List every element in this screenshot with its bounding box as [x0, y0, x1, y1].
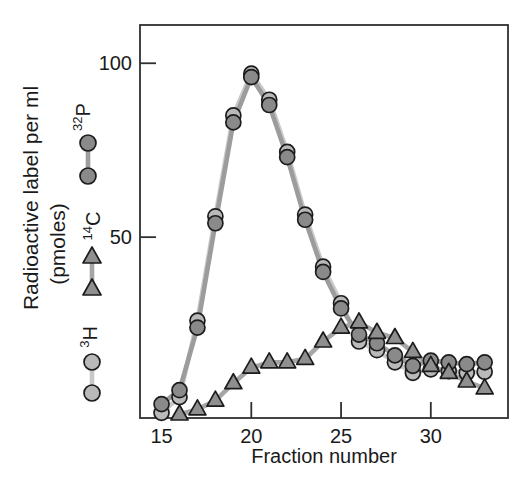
legend-label-32p-base: P	[72, 103, 94, 116]
data-point-circle	[208, 216, 223, 231]
y-tick-label: 100	[99, 52, 132, 74]
y-tick-label: 50	[110, 226, 132, 248]
data-point-circle	[280, 150, 295, 165]
data-point-circle	[405, 358, 420, 373]
figure: 1520253050100 Radioactive label per ml (…	[0, 0, 532, 491]
x-tick-label: 20	[240, 425, 262, 447]
x-axis-label: Fraction number	[174, 445, 474, 468]
data-point-circle	[80, 168, 96, 184]
data-point-circle	[154, 397, 169, 412]
data-point-circle	[352, 327, 367, 342]
x-tick-label: 25	[330, 425, 352, 447]
data-point-circle	[316, 264, 331, 279]
data-point-circle	[244, 70, 259, 85]
y-axis-units-label: (pmoles)	[47, 184, 69, 304]
legend-label-14c-sup: 14	[80, 226, 95, 240]
legend-label-3h-base: H	[79, 326, 101, 340]
data-point-circle	[387, 348, 402, 363]
data-point-circle	[84, 385, 100, 401]
legend-label-3h: 3H	[74, 307, 96, 367]
data-point-circle	[477, 355, 492, 370]
data-point-circle	[459, 357, 474, 372]
data-point-circle	[334, 301, 349, 316]
legend-label-14c-base: C	[82, 212, 104, 226]
data-point-circle	[226, 115, 241, 130]
data-point-circle	[172, 383, 187, 398]
y-axis-label: Radioactive label per ml	[20, 48, 42, 348]
legend-label-32p: 32P	[67, 87, 89, 147]
legend-label-3h-sup: 3	[77, 341, 92, 348]
x-tick-label: 30	[420, 425, 442, 447]
legend-label-32p-sup: 32	[70, 116, 85, 130]
data-point-circle	[190, 320, 205, 335]
data-point-triangle	[83, 279, 101, 295]
x-tick-label: 15	[150, 425, 172, 447]
data-point-circle	[298, 212, 313, 227]
legend-label-14c: 14C	[77, 196, 99, 256]
data-point-circle	[262, 97, 277, 112]
